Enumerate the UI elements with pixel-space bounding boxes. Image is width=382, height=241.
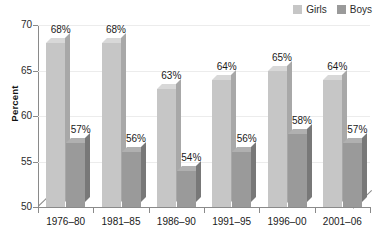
bar-side-face (85, 133, 90, 202)
x-tick-mark (370, 208, 371, 213)
y-tick-label: 60 (6, 111, 32, 121)
x-tick-mark (204, 208, 205, 213)
x-tick-label: 2001–06 (314, 216, 370, 227)
legend-item-girls: Girls (293, 5, 327, 15)
chart-legend: Girls Boys (293, 3, 372, 16)
bar-value-label: 56% (122, 134, 150, 144)
x-tick-label: 1981–85 (93, 216, 149, 227)
bar-boys-1 (122, 152, 141, 207)
x-tick-mark (315, 208, 316, 213)
x-tick-label: 1996–00 (259, 216, 315, 227)
bar-boys-0 (66, 143, 85, 207)
bar-value-label: 57% (67, 125, 95, 135)
x-tick-mark (149, 208, 150, 213)
bar-front-face (212, 80, 231, 207)
bar-value-label: 56% (233, 134, 261, 144)
bar-side-face (196, 161, 201, 202)
bar-value-label: 65% (268, 53, 296, 63)
plot-area: 68%57%68%56%63%54%64%56%65%58%64%57% (38, 25, 370, 207)
legend-swatch-girls-icon (293, 5, 302, 14)
bar-front-face (122, 152, 141, 207)
bar-girls-4 (268, 71, 287, 208)
bar-side-face (141, 142, 146, 202)
x-tick-mark (93, 208, 94, 213)
bar-value-label: 68% (102, 25, 130, 35)
bar-front-face (157, 89, 176, 207)
bar-boys-2 (177, 171, 196, 207)
x-tick-mark (38, 208, 39, 213)
bar-boys-4 (288, 134, 307, 207)
gridline (38, 25, 370, 26)
x-tick-mark (259, 208, 260, 213)
y-tick-label: 55 (6, 157, 32, 167)
bar-front-face (268, 71, 287, 208)
y-tick-label: 65 (6, 66, 32, 76)
bar-side-face (307, 124, 312, 202)
x-tick-label: 1986–90 (148, 216, 204, 227)
gridline (38, 71, 370, 72)
bar-girls-3 (212, 80, 231, 207)
gridline (38, 116, 370, 117)
y-tick-label: 70 (6, 20, 32, 30)
bar-value-label: 58% (288, 116, 316, 126)
bar-boys-3 (232, 152, 251, 207)
bar-front-face (102, 43, 121, 207)
x-tick-label: 1976–80 (38, 216, 94, 227)
bar-value-label: 64% (323, 62, 351, 72)
bar-front-face (288, 134, 307, 207)
bar-front-face (343, 143, 362, 207)
bar-girls-2 (157, 89, 176, 207)
legend-label-girls: Girls (306, 5, 327, 15)
legend-label-boys: Boys (350, 5, 372, 15)
bar-girls-1 (102, 43, 121, 207)
bar-side-face (251, 142, 256, 202)
x-tick-label: 1991–95 (204, 216, 260, 227)
bar-value-label: 68% (47, 25, 75, 35)
bar-front-face (66, 143, 85, 207)
bar-girls-5 (323, 80, 342, 207)
bar-value-label: 63% (157, 71, 185, 81)
bar-value-label: 54% (177, 153, 205, 163)
bar-front-face (323, 80, 342, 207)
y-tick-label: 50 (6, 202, 32, 212)
bar-front-face (177, 171, 196, 207)
legend-item-boys: Boys (337, 5, 372, 15)
y-axis-ticks: 5055606570 (0, 0, 32, 241)
bar-front-face (232, 152, 251, 207)
bar-value-label: 64% (213, 62, 241, 72)
bar-value-label: 57% (343, 125, 371, 135)
bar-front-face (46, 43, 65, 207)
bar-boys-5 (343, 143, 362, 207)
bar-girls-0 (46, 43, 65, 207)
bar-chart: Girls Boys Percent 5055606570 68%57%68%5… (0, 0, 382, 241)
bar-side-face (362, 133, 367, 202)
legend-swatch-boys-icon (337, 5, 346, 14)
